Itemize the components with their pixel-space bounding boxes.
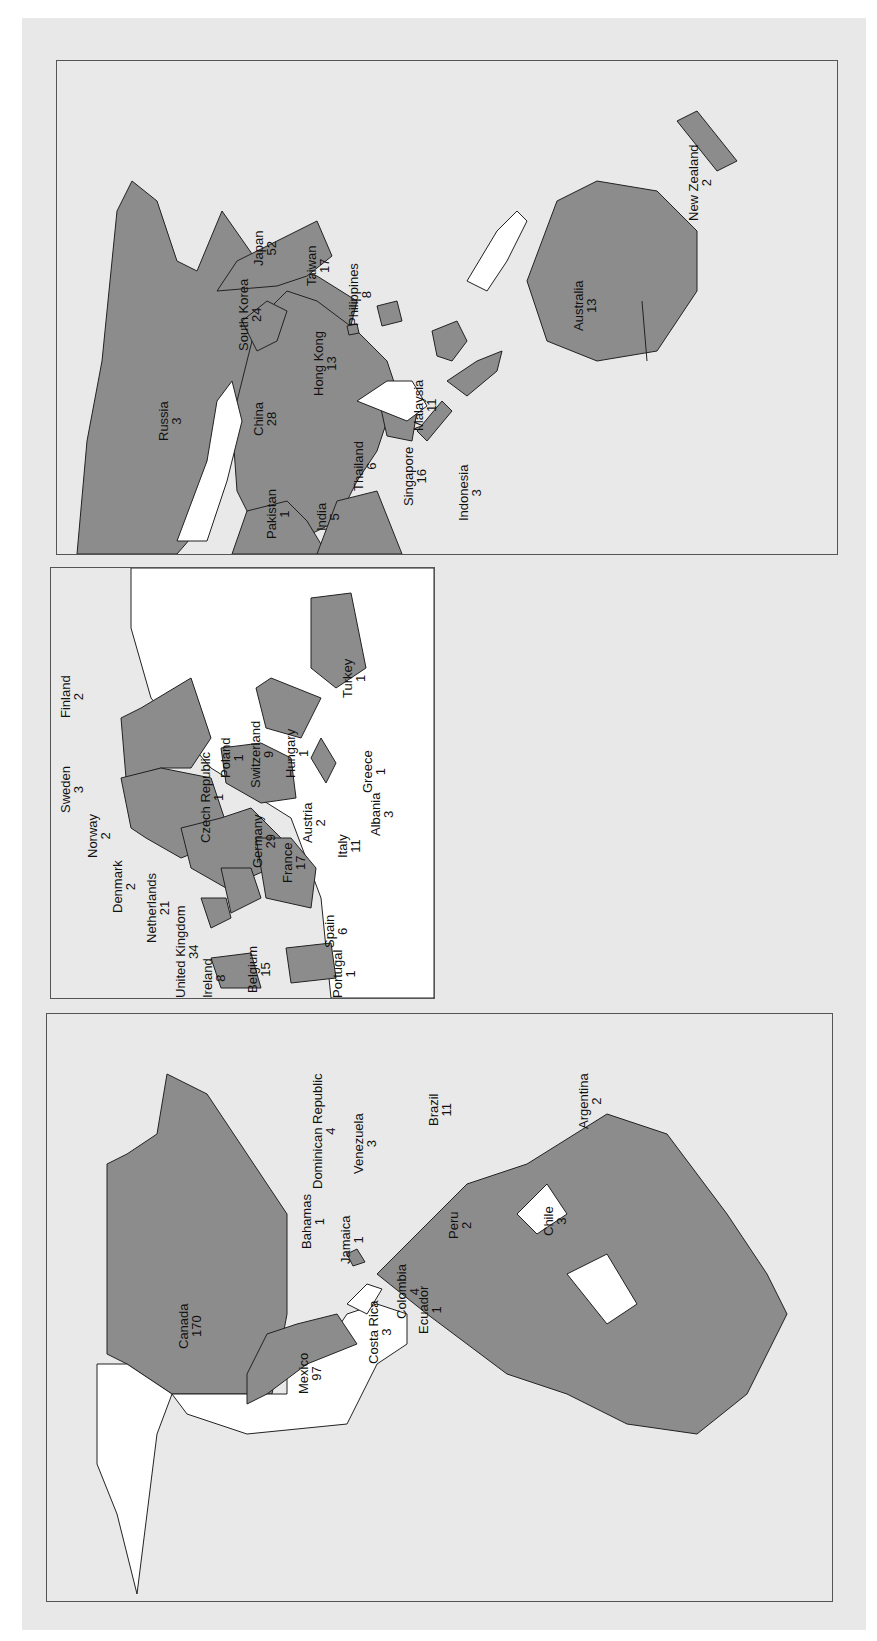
country-label-japan: Japan52 <box>252 231 278 266</box>
country-label-jamaica: Jamaica1 <box>339 1216 365 1264</box>
country-label-china: China28 <box>252 402 278 436</box>
map-panel-americas: Canada170 Mexico97 Bahamas1 Dominican Re… <box>46 1013 833 1602</box>
country-label-hong-kong: Hong Kong13 <box>312 331 338 396</box>
country-label-greece: Greece1 <box>361 750 387 793</box>
country-label-dominican-republic: Dominican Republic4 <box>311 1073 337 1189</box>
country-label-norway: Norway2 <box>86 814 112 858</box>
country-label-venezuela: Venezuela3 <box>352 1113 378 1174</box>
country-label-finland: Finland2 <box>59 675 85 718</box>
country-label-philippines: Philippines8 <box>347 263 373 326</box>
country-label-thailand: Thailand6 <box>352 441 378 491</box>
map-panel-europe: Finland2 Sweden3 Norway2 Denmark2 Nether… <box>50 567 435 999</box>
country-label-belgium: Belgium15 <box>246 946 272 993</box>
country-label-united-kingdom: United Kingdom34 <box>174 906 200 999</box>
country-label-chile: Chile3 <box>542 1206 568 1236</box>
country-label-canada: Canada170 <box>177 1303 203 1349</box>
country-label-malaysia: Malaysia11 <box>412 380 438 431</box>
country-label-ireland: Ireland8 <box>201 958 227 998</box>
country-label-taiwan: Taiwan17 <box>305 246 331 286</box>
country-label-italy: Italy11 <box>336 834 362 858</box>
country-label-spain: Spain6 <box>323 915 349 948</box>
country-label-australia: Australia13 <box>572 280 598 331</box>
country-label-peru: Peru2 <box>447 1212 473 1239</box>
country-label-mexico: Mexico97 <box>297 1353 323 1394</box>
asia-pacific-landmass <box>57 61 837 554</box>
country-label-germany: Germany29 <box>251 815 277 868</box>
country-label-turkey: Turkey1 <box>341 659 367 698</box>
country-label-argentina: Argentina2 <box>577 1073 603 1129</box>
country-label-india: India5 <box>315 503 341 531</box>
country-label-denmark: Denmark2 <box>111 860 137 913</box>
country-label-indonesia: Indonesia3 <box>457 465 483 521</box>
country-label-brazil: Brazil11 <box>427 1093 453 1126</box>
map-panel-asia-pacific: Russia3 China28 Pakistan1 India5 South K… <box>56 60 838 555</box>
country-label-russia: Russia3 <box>157 401 183 441</box>
country-label-albania: Albania3 <box>369 793 395 836</box>
country-label-switzerland: Switzerland9 <box>249 721 275 788</box>
country-label-costa-rica: Costa Rica3 <box>367 1300 393 1364</box>
country-label-portugal: Portugal1 <box>331 950 357 998</box>
country-label-netherlands: Netherlands21 <box>145 873 171 943</box>
country-label-france: France17 <box>281 843 307 883</box>
country-label-new-zealand: New Zealand2 <box>687 144 713 221</box>
country-label-poland: Poland1 <box>219 738 245 778</box>
country-label-ecuador: Ecuador1 <box>417 1286 443 1334</box>
country-label-pakistan: Pakistan1 <box>265 489 291 539</box>
country-label-bahamas: Bahamas1 <box>300 1194 326 1249</box>
country-label-hungary: Hungary1 <box>284 729 310 778</box>
country-label-sweden: Sweden3 <box>59 766 85 813</box>
country-label-singapore: Singapore16 <box>402 447 428 506</box>
country-label-austria: Austria2 <box>301 803 327 843</box>
country-label-south-korea: South Korea24 <box>237 279 263 351</box>
